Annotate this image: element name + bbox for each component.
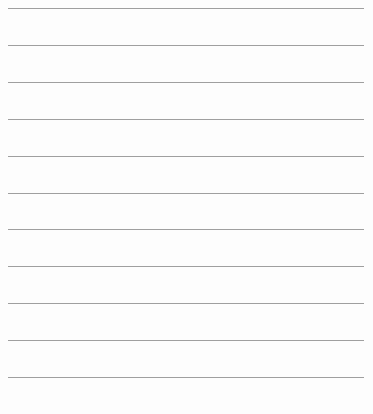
ruled-line (8, 340, 364, 341)
ruled-line (8, 266, 364, 267)
ruled-line (8, 303, 364, 304)
ruled-line (8, 119, 364, 120)
ruled-line (8, 377, 364, 378)
ruled-line (8, 82, 364, 83)
lined-paper-page (0, 0, 373, 414)
ruled-line (8, 45, 364, 46)
ruled-line (8, 193, 364, 194)
ruled-line (8, 156, 364, 157)
ruled-line (8, 8, 364, 9)
ruled-line (8, 229, 364, 230)
